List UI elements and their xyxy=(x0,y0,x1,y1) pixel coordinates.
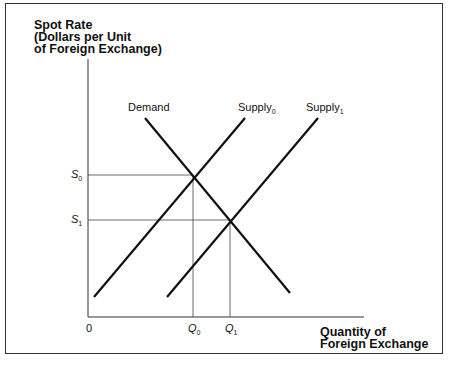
s1-sub: 1 xyxy=(78,220,82,227)
supply0-text: Supply xyxy=(238,101,272,113)
supply1-curve xyxy=(167,118,318,297)
q0-sub: 0 xyxy=(197,329,201,336)
q0-text: Q xyxy=(188,322,197,334)
q1-tick-label: Q1 xyxy=(225,322,237,336)
supply1-label: Supply1 xyxy=(306,101,344,115)
supply1-sub: 1 xyxy=(340,108,344,115)
s1-tick-label: S1 xyxy=(71,213,82,227)
origin-label: 0 xyxy=(86,322,92,334)
x-axis-label: Quantity of Foreign Exchange xyxy=(320,326,428,350)
demand-label: Demand xyxy=(128,101,170,113)
q0-tick-label: Q0 xyxy=(188,322,200,336)
q1-sub: 1 xyxy=(234,329,238,336)
demand-curve xyxy=(145,118,290,293)
q1-text: Q xyxy=(225,322,234,334)
s0-sub: 0 xyxy=(78,175,82,182)
supply0-sub: 0 xyxy=(272,108,276,115)
s0-tick-label: S0 xyxy=(71,168,82,182)
supply0-label: Supply0 xyxy=(238,101,276,115)
diagram-canvas xyxy=(0,0,449,365)
supply1-text: Supply xyxy=(306,101,340,113)
x-label-line-2: Foreign Exchange xyxy=(320,338,428,350)
supply0-curve xyxy=(94,118,245,297)
